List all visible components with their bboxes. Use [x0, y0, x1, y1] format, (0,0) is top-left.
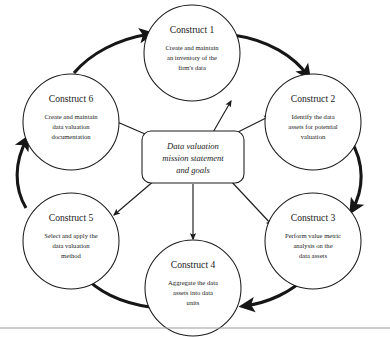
center-box-line-2: mission statement	[162, 153, 224, 163]
construct-6-circle	[23, 74, 119, 170]
construct-1-desc-line-3: firm's data	[178, 64, 206, 71]
spoke-center-to-construct3	[230, 180, 272, 225]
construct-4-circle	[145, 240, 241, 336]
node-construct-1[interactable]: Construct 1 Create and maintain an inven…	[144, 5, 240, 101]
construct-6-desc-line-1: Create and maintain	[44, 113, 98, 120]
construct-1-desc-line-1: Create and maintain	[165, 44, 219, 51]
construct-3-circle	[265, 193, 361, 289]
center-mission-box[interactable]: Data valuation mission statement and goa…	[142, 131, 244, 183]
node-construct-6[interactable]: Construct 6 Create and maintain data val…	[23, 74, 119, 170]
construct-3-desc-line-2: analysis on the	[293, 242, 332, 249]
construct-2-desc-line-2: assets for potential	[288, 123, 338, 130]
arrow-construct5-to-construct6	[17, 139, 27, 208]
construct-2-title: Construct 2	[291, 93, 336, 104]
construct-4-title: Construct 4	[171, 259, 216, 270]
construct-3-desc-line-1: Perform value metric	[285, 232, 341, 239]
construct-2-desc-line-1: Identify the data	[291, 113, 334, 120]
spoke-center-to-construct5	[114, 180, 155, 215]
center-box-line-1: Data valuation	[166, 141, 219, 151]
construct-6-desc-line-2: data valuation	[52, 123, 90, 130]
spoke-center-to-construct1	[212, 101, 231, 134]
center-box-line-3: and goals	[176, 165, 210, 175]
node-construct-5[interactable]: Construct 5 Select and apply the data va…	[23, 193, 119, 289]
construct-1-desc-line-2: an inventory of the	[167, 54, 217, 61]
arrow-construct1-to-construct2	[233, 35, 308, 76]
construct-5-title: Construct 5	[49, 212, 94, 223]
construct-4-desc-line-1: Aggregate the data	[168, 279, 218, 286]
construct-4-desc-line-2: assets into data	[173, 289, 213, 296]
node-construct-4[interactable]: Construct 4 Aggregate the data assets in…	[145, 240, 241, 336]
construct-5-circle	[23, 193, 119, 289]
construct-5-desc-line-1: Select and apply the	[44, 232, 97, 239]
node-construct-2[interactable]: Construct 2 Identify the data assets for…	[265, 74, 361, 170]
construct-3-title: Construct 3	[291, 212, 336, 223]
construct-2-circle	[265, 74, 361, 170]
construct-1-title: Construct 1	[170, 24, 215, 35]
construct-6-desc-line-3: documentation	[51, 133, 91, 140]
construct-4-desc-line-3: units	[187, 299, 200, 306]
arrow-construct6-to-construct1	[74, 34, 150, 73]
construct-2-desc-line-3: valuation	[301, 133, 326, 140]
construct-5-desc-line-2: data valuation	[52, 242, 90, 249]
construct-3-desc-line-3: data assets	[299, 252, 327, 259]
figure-canvas: Construct 1 Create and maintain an inven…	[0, 0, 390, 337]
construct-6-title: Construct 6	[49, 93, 94, 104]
construct-1-circle	[144, 5, 240, 101]
node-construct-3[interactable]: Construct 3 Perform value metric analysi…	[265, 193, 361, 289]
construct-5-desc-line-3: method	[61, 252, 81, 259]
